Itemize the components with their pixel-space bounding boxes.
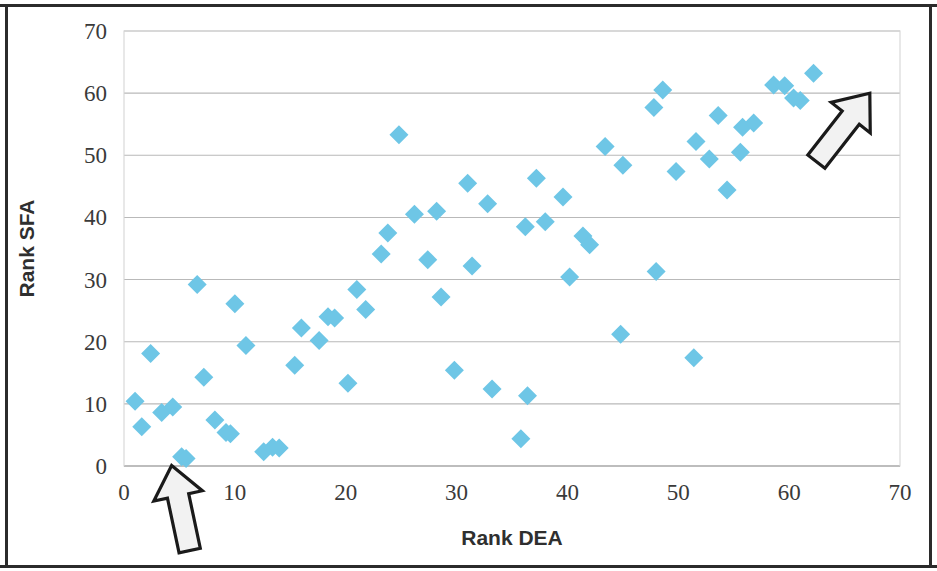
data-point <box>372 245 391 264</box>
data-point <box>292 319 311 338</box>
data-point <box>709 106 728 125</box>
data-point <box>518 386 537 405</box>
data-point <box>141 344 160 363</box>
y-tick-label: 10 <box>84 392 107 417</box>
y-tick-label: 40 <box>84 205 107 230</box>
x-tick-label: 10 <box>223 480 246 505</box>
plot-area-frame <box>124 31 900 466</box>
data-point <box>483 379 502 398</box>
data-point <box>378 223 397 242</box>
data-point <box>684 348 703 367</box>
data-point <box>194 368 213 387</box>
data-point <box>644 98 663 117</box>
chart-page: 010203040506070 010203040506070 Rank DEA… <box>0 0 937 571</box>
data-point <box>356 300 375 319</box>
x-tick-label: 60 <box>778 480 801 505</box>
x-axis-tick-labels: 010203040506070 <box>118 480 911 505</box>
data-point <box>553 187 572 206</box>
data-point <box>405 205 424 224</box>
data-point <box>613 156 632 175</box>
data-point <box>653 81 672 100</box>
lower-left-annotation-arrow <box>147 460 214 555</box>
data-point <box>418 250 437 269</box>
data-point <box>225 294 244 313</box>
y-axis-title: Rank SFA <box>15 199 38 297</box>
data-point <box>432 287 451 306</box>
data-point <box>536 212 555 231</box>
y-tick-label: 70 <box>84 19 107 44</box>
data-point <box>560 268 579 287</box>
data-point <box>804 64 823 83</box>
data-point <box>338 374 357 393</box>
data-point <box>478 194 497 213</box>
x-tick-label: 20 <box>334 480 357 505</box>
x-tick-label: 70 <box>889 480 912 505</box>
scatter-chart: 010203040506070 010203040506070 Rank DEA… <box>0 0 937 571</box>
data-point <box>205 411 224 430</box>
data-point <box>731 143 750 162</box>
data-point <box>458 174 477 193</box>
data-point <box>132 417 151 436</box>
data-point <box>667 162 686 181</box>
data-point <box>511 429 530 448</box>
data-point <box>463 256 482 275</box>
data-point <box>188 275 207 294</box>
y-axis-tick-labels: 010203040506070 <box>84 19 107 479</box>
data-point <box>718 181 737 200</box>
y-tick-label: 0 <box>96 454 108 479</box>
data-point <box>445 361 464 380</box>
x-axis-title: Rank DEA <box>461 526 563 549</box>
x-tick-label: 30 <box>445 480 468 505</box>
data-point <box>389 125 408 144</box>
y-tick-label: 20 <box>84 330 107 355</box>
y-tick-label: 30 <box>84 268 107 293</box>
data-point <box>285 356 304 375</box>
data-point <box>687 132 706 151</box>
data-point <box>611 325 630 344</box>
data-point <box>126 392 145 411</box>
data-point <box>596 137 615 156</box>
gridlines-group <box>124 31 900 466</box>
x-tick-label: 0 <box>118 480 130 505</box>
data-point <box>647 262 666 281</box>
y-tick-label: 50 <box>84 143 107 168</box>
data-point <box>236 336 255 355</box>
data-point <box>527 169 546 188</box>
data-point <box>516 217 535 236</box>
data-markers-group <box>126 64 823 468</box>
data-point <box>700 150 719 169</box>
x-tick-label: 50 <box>667 480 690 505</box>
data-point <box>310 331 329 350</box>
x-tick-label: 40 <box>556 480 579 505</box>
data-point <box>347 280 366 299</box>
y-tick-label: 60 <box>84 81 107 106</box>
